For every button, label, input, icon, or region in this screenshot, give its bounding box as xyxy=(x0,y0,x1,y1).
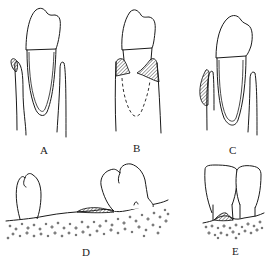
panel-d-ridge xyxy=(6,164,169,239)
panel-b-tooth xyxy=(115,10,161,133)
panel-label-b: B xyxy=(133,143,140,154)
panel-e-incisors xyxy=(203,165,264,239)
panel-a-tooth xyxy=(11,8,66,137)
panel-label-e: E xyxy=(232,246,239,257)
panel-label-c: C xyxy=(229,145,236,156)
panel-label-d: D xyxy=(82,247,90,258)
panel-label-a: A xyxy=(40,145,48,156)
bone-stipple-e xyxy=(205,221,263,239)
panel-c-tooth xyxy=(200,16,257,135)
dental-diagram xyxy=(0,0,270,265)
